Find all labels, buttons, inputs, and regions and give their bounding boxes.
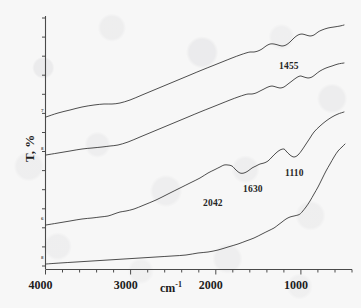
- x-axis-title: cm-1: [160, 280, 182, 296]
- x-axis-tick-label: 3000: [114, 278, 138, 293]
- x-axis-tick-label: 4000: [29, 278, 53, 293]
- spectrum-curve-curve-b: [46, 63, 344, 155]
- curve-id-label: 7: [41, 108, 44, 113]
- x-axis-title-text: cm: [160, 281, 175, 295]
- x-axis-ticks: [46, 270, 353, 275]
- y-axis-title: T, %: [22, 135, 38, 162]
- x-axis-title-superscript: -1: [175, 280, 182, 289]
- ftir-spectra-plot: [0, 0, 361, 308]
- curve-id-label: 8: [41, 146, 44, 151]
- figure-root: T, % cm-1 4000300020001000 1455204216301…: [0, 0, 361, 308]
- peak-label-2042: 2042: [203, 198, 223, 208]
- peak-label-1455: 1455: [279, 61, 299, 71]
- curve-id-label: 6: [41, 216, 44, 221]
- spectra-curves-group: [46, 25, 345, 264]
- spectrum-curve-curve-d: [46, 144, 345, 264]
- x-axis-tick-label: 2000: [199, 278, 223, 293]
- peak-label-1630: 1630: [243, 184, 263, 194]
- spectrum-curve-curve-a: [46, 25, 344, 117]
- peak-label-1110: 1110: [285, 168, 304, 178]
- curve-id-label: 8: [41, 255, 44, 260]
- x-axis-tick-label: 1000: [284, 278, 308, 293]
